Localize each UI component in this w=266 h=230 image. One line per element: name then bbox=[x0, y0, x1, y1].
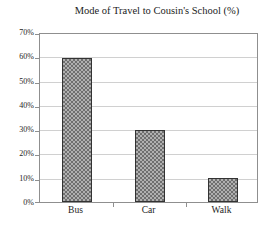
y-axis-label-20: 20% bbox=[0, 149, 34, 159]
bar-bus bbox=[62, 58, 92, 202]
y-axis-label-40: 40% bbox=[0, 101, 34, 111]
y-axis-label-70: 70% bbox=[0, 28, 34, 38]
y-axis-tick-50 bbox=[35, 83, 39, 84]
y-axis-tick-20 bbox=[35, 155, 39, 156]
x-axis-label-bus: Bus bbox=[39, 205, 112, 216]
x-axis-label-car: Car bbox=[112, 205, 185, 216]
x-axis-label-walk: Walk bbox=[185, 205, 258, 216]
y-axis-label-30: 30% bbox=[0, 125, 34, 135]
y-axis-tick-40 bbox=[35, 107, 39, 108]
chart-title: Mode of Travel to Cousin's School (%) bbox=[48, 5, 266, 17]
plot-area bbox=[39, 33, 258, 203]
y-axis-label-0: 0% bbox=[0, 198, 34, 208]
y-axis-tick-70 bbox=[35, 34, 39, 35]
y-axis-tick-0 bbox=[35, 202, 39, 203]
x-axis-tick-1 bbox=[113, 203, 114, 207]
y-axis-label-50: 50% bbox=[0, 77, 34, 87]
y-axis-tick-30 bbox=[35, 131, 39, 132]
x-axis-tick-2 bbox=[186, 203, 187, 207]
y-axis-tick-10 bbox=[35, 180, 39, 181]
y-axis-tick-60 bbox=[35, 58, 39, 59]
y-axis-label-10: 10% bbox=[0, 174, 34, 184]
bar-walk bbox=[208, 178, 238, 202]
bar-car bbox=[135, 130, 165, 202]
y-axis-label-60: 60% bbox=[0, 52, 34, 62]
bar-chart: Mode of Travel to Cousin's School (%) 0%… bbox=[0, 0, 266, 230]
